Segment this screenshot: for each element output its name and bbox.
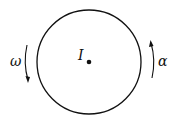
alpha-arrowhead-icon <box>149 40 154 47</box>
angular-velocity-label: ω <box>10 53 22 69</box>
center-point <box>87 60 92 65</box>
rotating-disk-diagram: I ω α <box>0 0 177 122</box>
omega-arrow <box>25 45 28 80</box>
moment-of-inertia-label: I <box>77 47 84 63</box>
omega-arrowhead-icon <box>26 76 31 83</box>
angular-acceleration-label: α <box>158 53 168 69</box>
alpha-arrow <box>151 43 154 78</box>
